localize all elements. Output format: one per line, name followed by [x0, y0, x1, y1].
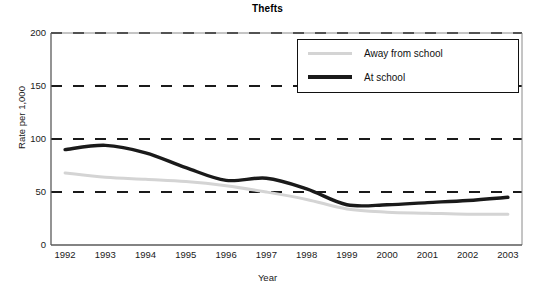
legend-item-label: Away from school	[364, 48, 443, 59]
data-series-layer	[65, 145, 508, 214]
legend-line-swatch-icon	[308, 48, 352, 58]
legend-item-label: At school	[364, 72, 405, 83]
legend-item: Away from school	[298, 48, 520, 68]
thefts-line-chart: Thefts Rate per 1,000 Year 050100150200 …	[0, 0, 535, 296]
chart-legend: Away from schoolAt school	[297, 39, 519, 93]
series-line	[65, 173, 508, 214]
legend-item: At school	[298, 72, 520, 92]
legend-line-swatch-icon	[308, 72, 352, 82]
